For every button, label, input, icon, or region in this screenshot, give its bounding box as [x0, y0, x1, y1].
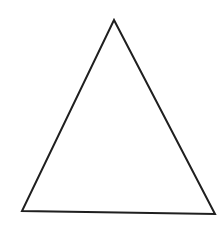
triangle-shape	[22, 20, 215, 214]
diagram-canvas	[0, 0, 221, 244]
